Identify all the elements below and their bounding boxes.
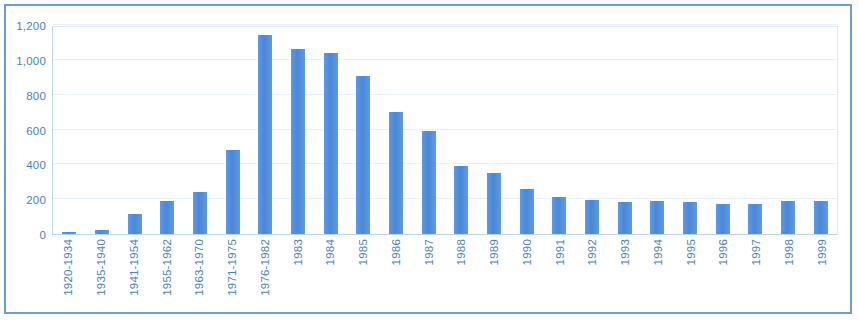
- x-axis-tick-label: 1993: [619, 239, 631, 265]
- x-axis-tick-label: 1997: [750, 239, 762, 265]
- bar[interactable]: [650, 201, 664, 234]
- x-axis-tick-label: 1920-1934: [62, 239, 74, 296]
- x-axis-tick-slot: 1935-1940: [85, 237, 118, 313]
- bar-slot: [118, 27, 151, 234]
- x-axis-tick-label: 1992: [586, 239, 598, 265]
- y-axis-tick-label: 200: [26, 194, 46, 206]
- bar-slot: [249, 27, 282, 234]
- chart-frame: 02004006008001,0001,200 1920-19341935-19…: [4, 4, 852, 314]
- bar[interactable]: [324, 53, 338, 234]
- x-axis-tick-slot: 1993: [609, 237, 642, 313]
- bar[interactable]: [160, 201, 174, 234]
- y-axis-tick-label: 800: [26, 90, 46, 102]
- x-axis-tick-slot: 1995: [674, 237, 707, 313]
- bar-slot: [314, 27, 347, 234]
- x-axis-tick-label: 1955-1962: [161, 239, 173, 296]
- x-axis-tick-label: 1998: [783, 239, 795, 265]
- bar[interactable]: [716, 204, 730, 234]
- x-axis-tick-label: 1999: [816, 239, 828, 265]
- bar-slot: [641, 27, 674, 234]
- x-axis-tick-slot: 1984: [314, 237, 347, 313]
- bar-slot: [282, 27, 315, 234]
- x-axis-tick-slot: 1992: [576, 237, 609, 313]
- x-axis-tick-slot: 1941-1954: [118, 237, 151, 313]
- bar-slot: [706, 27, 739, 234]
- bar-slot: [772, 27, 805, 234]
- x-axis-tick-slot: 1955-1962: [150, 237, 183, 313]
- y-axis-tick-label: 600: [26, 125, 46, 137]
- bar-slot: [576, 27, 609, 234]
- y-axis-tick-label: 400: [26, 159, 46, 171]
- bar[interactable]: [291, 49, 305, 234]
- bar[interactable]: [814, 201, 828, 234]
- x-axis-tick-slot: 1999: [805, 237, 838, 313]
- x-axis-tick-slot: 1985: [347, 237, 380, 313]
- bar[interactable]: [520, 189, 534, 234]
- bar[interactable]: [226, 150, 240, 234]
- x-axis-tick-slot: 1997: [740, 237, 773, 313]
- bar[interactable]: [128, 214, 142, 234]
- bar[interactable]: [487, 173, 501, 234]
- bar-slot: [510, 27, 543, 234]
- x-axis-tick-slot: 1996: [707, 237, 740, 313]
- x-axis-tick-label: 1935-1940: [95, 239, 107, 296]
- bar[interactable]: [193, 192, 207, 234]
- bar-slot: [53, 27, 86, 234]
- bar[interactable]: [618, 202, 632, 234]
- x-axis-tick-label: 1971-1975: [226, 239, 238, 296]
- x-axis: 1920-19341935-19401941-19541955-19621963…: [52, 237, 838, 313]
- bar[interactable]: [585, 200, 599, 234]
- bar-chart: 02004006008001,0001,200 1920-19341935-19…: [6, 6, 850, 312]
- x-axis-tick-label: 1989: [488, 239, 500, 265]
- x-axis-tick-label: 1988: [455, 239, 467, 265]
- x-axis-tick-slot: 1989: [478, 237, 511, 313]
- x-axis-tick-label: 1987: [423, 239, 435, 265]
- bar-slot: [543, 27, 576, 234]
- x-axis-tick-label: 1991: [554, 239, 566, 265]
- bar-slot: [445, 27, 478, 234]
- x-axis-tick-slot: 1998: [773, 237, 806, 313]
- bar-slot: [739, 27, 772, 234]
- x-axis-tick-label: 1963-1970: [193, 239, 205, 296]
- bar-slot: [478, 27, 511, 234]
- x-axis-tick-label: 1994: [652, 239, 664, 265]
- x-axis-tick-label: 1976-1982: [259, 239, 271, 296]
- y-axis-tick-label: 0: [39, 229, 46, 241]
- bar-slot: [184, 27, 217, 234]
- x-axis-tick-slot: 1920-1934: [52, 237, 85, 313]
- x-axis-tick-slot: 1976-1982: [249, 237, 282, 313]
- x-axis-tick-slot: 1990: [511, 237, 544, 313]
- bar[interactable]: [356, 76, 370, 234]
- y-axis-tick-label: 1,200: [16, 20, 46, 32]
- bar[interactable]: [258, 35, 272, 234]
- x-axis-tick-label: 1990: [521, 239, 533, 265]
- x-axis-tick-slot: 1994: [642, 237, 675, 313]
- plot-area: [52, 26, 838, 235]
- x-axis-tick-label: 1941-1954: [128, 239, 140, 296]
- bar-slot: [674, 27, 707, 234]
- x-axis-tick-slot: 1986: [380, 237, 413, 313]
- bar[interactable]: [781, 201, 795, 234]
- bar-slot: [86, 27, 119, 234]
- bar[interactable]: [389, 112, 403, 234]
- x-axis-tick-slot: 1988: [445, 237, 478, 313]
- x-axis-tick-label: 1985: [357, 239, 369, 265]
- bar-slot: [380, 27, 413, 234]
- y-axis: 02004006008001,0001,200: [6, 6, 50, 312]
- bar[interactable]: [454, 166, 468, 234]
- bar[interactable]: [748, 204, 762, 234]
- bar-slot: [216, 27, 249, 234]
- bar[interactable]: [62, 232, 76, 234]
- bar[interactable]: [552, 197, 566, 234]
- bar[interactable]: [683, 202, 697, 234]
- x-axis-tick-label: 1984: [324, 239, 336, 265]
- bar[interactable]: [95, 230, 109, 234]
- x-axis-tick-slot: 1963-1970: [183, 237, 216, 313]
- gridline: [53, 24, 837, 25]
- bar[interactable]: [422, 131, 436, 234]
- bar-series: [53, 27, 837, 234]
- y-axis-tick-label: 1,000: [16, 55, 46, 67]
- x-axis-tick-slot: 1971-1975: [216, 237, 249, 313]
- x-axis-tick-slot: 1983: [281, 237, 314, 313]
- bar-slot: [347, 27, 380, 234]
